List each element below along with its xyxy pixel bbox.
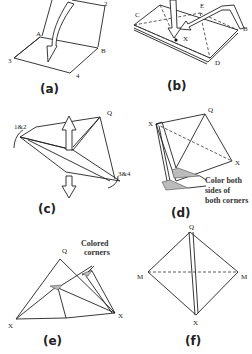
panel-b-label-e: E	[200, 2, 204, 10]
panel-d-left-edge	[156, 124, 168, 186]
origami-diagram: A B 2 3 4 (a) C E X B D (b)	[0, 0, 252, 354]
panel-e-main-triangle	[16, 259, 115, 319]
panel-b-caption: (b)	[167, 79, 187, 93]
panel-e-caption: (e)	[43, 334, 62, 348]
panel-e-label-q: Q	[62, 247, 67, 255]
panel-d-pointer-2	[188, 186, 206, 188]
panel-a-sheet-top-edge	[72, 0, 105, 47]
panel-d-label-q: Q	[208, 106, 213, 114]
panel-a-fold-line	[14, 37, 40, 58]
panel-b-down-arrow	[168, 0, 181, 38]
panel-b-point-x	[174, 38, 177, 41]
panel-a-sheet-left-edge	[42, 0, 52, 36]
panel-a-fold-arrow	[47, 2, 74, 62]
panel-d-note-line-1: Color both	[205, 176, 243, 185]
panel-f-label-x: X	[193, 319, 198, 327]
panel-d-colored-corner-1	[172, 168, 200, 178]
panel-a-label-2: 2	[104, 0, 108, 8]
panel-f-label-m-left: M	[137, 273, 144, 281]
panel-c-caption: (c)	[38, 202, 56, 216]
panel-d-note-line-2: sides of	[205, 186, 230, 195]
panel-d-colored-corner-2	[162, 180, 188, 190]
panel-e-label-x-left: X	[8, 322, 13, 330]
panel-b: C E X B D (b)	[134, 0, 248, 93]
panel-d-left-edge-2	[159, 126, 171, 186]
panel-c-top-flap	[20, 117, 100, 150]
panel-d-note-line-3: both corners	[205, 196, 248, 205]
panel-e-middle-crease	[56, 287, 115, 313]
panel-b-label-d: D	[215, 59, 220, 67]
panel-b-label-x: X	[183, 35, 188, 43]
panel-b-bottom-edge	[134, 30, 207, 64]
panel-d-label-x-left: X	[148, 120, 153, 128]
panel-d-main-square	[156, 114, 232, 181]
panel-d: X Q X Color both sides of both corners (…	[148, 106, 248, 220]
panel-f-label-m-right: M	[241, 273, 248, 281]
panel-d-crease	[176, 114, 205, 168]
panel-a-label-3: 3	[8, 57, 12, 65]
panel-e-label-x-right: X	[118, 312, 123, 320]
panel-e: Q X X Colored corners (e)	[8, 239, 123, 348]
panel-c-center-crease	[73, 117, 100, 147]
panel-d-caption: (d)	[171, 206, 191, 220]
panel-c-curl-right	[108, 176, 118, 188]
panel-c: 1&2 Q 3&4 (c)	[14, 109, 131, 216]
panel-f-diamond	[148, 232, 238, 315]
panel-c-label-1and2: 1&2	[14, 123, 27, 131]
panel-c-down-arrow	[62, 176, 76, 198]
panel-e-right-flap-inner	[86, 276, 112, 313]
panel-d-label-x-right: X	[235, 159, 240, 167]
panel-f: Q M M X (f)	[137, 223, 248, 348]
panel-e-note-line-1: Colored	[81, 239, 109, 248]
panel-b-fold-arrow	[180, 5, 244, 30]
panel-a: A B 2 3 4 (a)	[8, 0, 108, 96]
panel-c-label-3and4: 3&4	[118, 170, 131, 178]
panel-f-label-q: Q	[189, 223, 194, 231]
panel-f-caption: (f)	[185, 334, 201, 348]
panel-a-caption: (a)	[40, 82, 59, 96]
panel-e-note-line-2: corners	[84, 248, 110, 257]
panel-e-vertical-crease	[58, 288, 66, 318]
panel-a-label-b: B	[101, 47, 106, 55]
panel-c-curl-left	[14, 130, 23, 148]
panel-c-label-q: Q	[107, 109, 112, 117]
panel-b-label-c: C	[135, 11, 140, 19]
panel-b-label-b: B	[243, 25, 248, 33]
panel-a-label-4: 4	[76, 72, 80, 80]
panel-a-label-a: A	[36, 30, 41, 38]
